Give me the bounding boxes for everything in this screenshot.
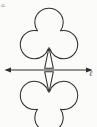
club-shape-upper xyxy=(20,8,77,68)
reflection-diagram-svg xyxy=(0,0,97,127)
axis-label: ℓ xyxy=(89,70,92,78)
reflection-figure: a. xyxy=(0,0,97,127)
axis-arrowhead-left xyxy=(5,68,12,73)
club-shape-lower xyxy=(20,72,77,127)
